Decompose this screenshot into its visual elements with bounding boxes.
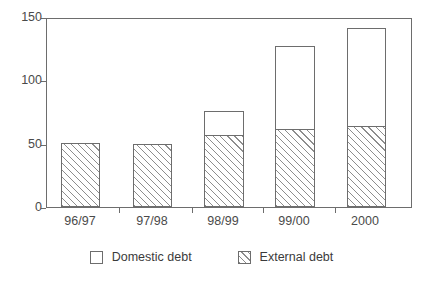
x-tick-mark-4 [335,208,336,213]
bar-segment-external-2000 [347,126,386,207]
legend-swatch-external-icon [238,251,251,264]
bar-segment-external-98-99 [204,135,244,207]
legend-swatch-domestic-icon [90,251,103,264]
x-tick-label-98-99: 98/99 [188,214,258,228]
bar-segment-external-97-98 [133,144,172,207]
bar-group-99-00 [275,19,315,207]
bar-segment-domestic-99-00 [275,46,315,130]
legend-item-domestic-debt: Domestic debt [90,250,192,264]
bar-group-98-99 [204,19,244,207]
bar-group-96-97 [61,19,100,207]
x-tick-label-97-98: 97/98 [117,214,187,228]
legend-label-external: External debt [260,250,334,264]
x-tick-mark-2 [192,208,193,213]
chart-legend: Domestic debt External debt [0,250,423,264]
bar-segment-external-99-00 [275,129,315,207]
x-tick-label-2000: 2000 [330,214,400,228]
x-tick-label-96-97: 96/97 [45,214,115,228]
x-tick-mark-1 [119,208,120,213]
x-tick-label-99-00: 99/00 [259,214,329,228]
bar-group-97-98 [133,19,172,207]
plot-area [46,18,412,208]
y-tick-label-50: 50 [6,138,42,150]
bar-group-2000 [347,19,386,207]
legend-label-domestic: Domestic debt [112,250,192,264]
bar-segment-external-96-97 [61,143,100,207]
bar-segment-domestic-98-99 [204,111,244,136]
legend-item-external-debt: External debt [238,250,334,264]
y-tick-label-100: 100 [6,74,42,86]
y-tick-label-0: 0 [6,201,42,213]
y-tick-label-150: 150 [6,11,42,23]
bar-chart-figure: 150 100 50 0 96/97 97/9 [0,0,423,290]
bar-segment-domestic-2000 [347,28,386,127]
x-tick-mark-3 [263,208,264,213]
